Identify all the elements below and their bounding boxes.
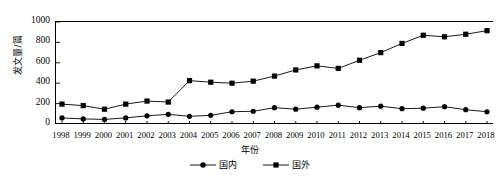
data-point	[251, 79, 256, 84]
data-point	[81, 103, 86, 108]
legend-label: 国外	[292, 160, 310, 170]
data-point	[102, 117, 107, 122]
data-point	[187, 78, 192, 83]
y-tick-label: 600	[10, 57, 50, 67]
data-point	[442, 104, 447, 109]
data-point	[272, 105, 277, 110]
x-tick-label: 2018	[466, 131, 500, 140]
legend-circle-marker-icon	[190, 160, 216, 170]
plot-area	[55, 21, 493, 124]
data-point	[442, 34, 447, 39]
legend-square-marker-icon	[263, 160, 289, 170]
data-point	[59, 102, 64, 107]
data-point	[229, 81, 234, 86]
data-point	[484, 109, 489, 114]
data-point	[484, 28, 489, 33]
data-point	[378, 104, 383, 109]
y-tick-label: 200	[10, 98, 50, 108]
x-axis-title: 年份	[0, 145, 500, 155]
data-point	[187, 114, 192, 119]
data-point	[399, 106, 404, 111]
data-point	[102, 107, 107, 112]
y-tick-label: 400	[10, 77, 50, 87]
data-point	[208, 113, 213, 118]
data-point	[463, 107, 468, 112]
data-point	[166, 112, 171, 117]
data-point	[208, 80, 213, 85]
legend-label: 国内	[219, 160, 237, 170]
data-point	[399, 41, 404, 46]
y-tick-label: 800	[10, 36, 50, 46]
y-tick-label: 0	[10, 118, 50, 128]
data-point	[421, 106, 426, 111]
x-axis-tick-labels: 1998199920002001200220032004200520062007…	[55, 131, 495, 145]
data-point	[272, 73, 277, 78]
data-point	[123, 102, 128, 107]
legend-item-2[interactable]: 国外	[263, 160, 310, 170]
data-point	[463, 32, 468, 37]
data-point	[378, 50, 383, 55]
data-point	[314, 105, 319, 110]
data-point	[293, 67, 298, 72]
data-point	[251, 109, 256, 114]
data-point	[336, 66, 341, 71]
data-point	[421, 33, 426, 38]
data-point	[229, 109, 234, 114]
y-tick-label: 1000	[10, 16, 50, 26]
data-point	[357, 58, 362, 63]
data-point	[81, 116, 86, 121]
data-point	[144, 98, 149, 103]
data-point	[123, 115, 128, 120]
data-point	[357, 105, 362, 110]
chart-canvas	[56, 22, 493, 124]
line-chart-figure: 发文量/篇 02004006008001000 1998199920002001…	[0, 0, 500, 186]
data-point	[314, 63, 319, 68]
y-axis-tick-labels: 02004006008001000	[8, 0, 50, 186]
legend-item-1[interactable]: 国内	[190, 160, 237, 170]
data-point	[59, 115, 64, 120]
data-point	[144, 113, 149, 118]
series-line-国外	[62, 31, 487, 110]
chart-legend: 国内国外	[0, 160, 500, 170]
data-point	[166, 99, 171, 104]
data-point	[336, 103, 341, 108]
data-point	[293, 107, 298, 112]
